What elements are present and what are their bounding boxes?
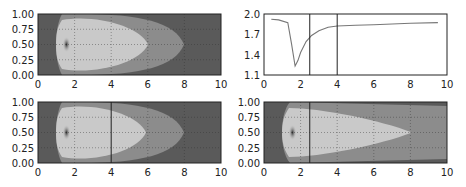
ytick: 1.4 xyxy=(244,50,260,61)
xticks-top-right: 0 2 4 6 8 10 xyxy=(261,79,454,90)
contour-area xyxy=(38,14,221,75)
xtick: 2 xyxy=(71,167,77,178)
xtick: 0 xyxy=(35,79,41,90)
xtick: 4 xyxy=(334,79,340,90)
xtick: 6 xyxy=(145,79,151,90)
xticks-bottom-right: 0 2 4 6 8 10 xyxy=(261,167,454,178)
xtick: 6 xyxy=(371,167,377,178)
plot-top-right xyxy=(264,14,447,75)
ytick: 1.00 xyxy=(12,9,34,20)
xtick: 8 xyxy=(407,167,413,178)
contour-source-spot xyxy=(63,125,71,141)
xtick: 10 xyxy=(441,167,454,178)
ytick: 1.7 xyxy=(244,29,260,40)
yticks-bottom-right: 1.00 0.75 0.50 0.25 0.00 xyxy=(238,97,260,169)
ytick: 0.00 xyxy=(12,158,34,169)
ytick: 2.0 xyxy=(244,9,260,20)
xtick: 8 xyxy=(181,79,187,90)
ytick: 0.75 xyxy=(238,112,260,123)
xtick: 8 xyxy=(181,167,187,178)
xtick: 0 xyxy=(261,167,267,178)
xtick: 0 xyxy=(35,167,41,178)
plot-bottom-left xyxy=(38,102,221,163)
contour-source-spot xyxy=(63,37,71,53)
ytick: 0.00 xyxy=(238,158,260,169)
xtick: 4 xyxy=(108,167,114,178)
xtick: 4 xyxy=(108,79,114,90)
xtick: 10 xyxy=(215,167,228,178)
xtick: 6 xyxy=(145,167,151,178)
ytick: 0.25 xyxy=(238,143,260,154)
ytick: 0.00 xyxy=(12,70,34,81)
xtick: 8 xyxy=(407,79,413,90)
ytick: 1.00 xyxy=(238,97,260,108)
ytick: 0.50 xyxy=(12,39,34,50)
ytick: 0.75 xyxy=(12,112,34,123)
yticks-bottom-left: 1.00 0.75 0.50 0.25 0.00 xyxy=(12,97,34,169)
ytick: 0.50 xyxy=(238,127,260,138)
yticks-top-left: 1.00 0.75 0.50 0.25 0.00 xyxy=(12,9,34,81)
plot-bottom-right xyxy=(264,102,447,163)
xtick: 4 xyxy=(334,167,340,178)
ytick: 0.25 xyxy=(12,55,34,66)
xtick: 2 xyxy=(297,79,303,90)
xtick: 0 xyxy=(261,79,267,90)
figure: 1.00 0.75 0.50 0.25 0.00 0 2 4 6 8 10 2.… xyxy=(0,0,466,187)
ytick: 1.00 xyxy=(12,97,34,108)
contour-area xyxy=(38,102,221,163)
xticks-bottom-left: 0 2 4 6 8 10 xyxy=(35,167,228,178)
xtick: 10 xyxy=(441,79,454,90)
plot-top-left xyxy=(38,14,221,75)
yticks-top-right: 2.0 1.7 1.4 1.1 xyxy=(244,9,260,81)
xtick: 2 xyxy=(297,167,303,178)
xtick: 6 xyxy=(371,79,377,90)
ytick: 0.50 xyxy=(12,127,34,138)
ytick: 0.75 xyxy=(12,24,34,35)
xtick: 2 xyxy=(71,79,77,90)
xtick: 10 xyxy=(215,79,228,90)
ytick: 0.25 xyxy=(12,143,34,154)
contour-source-spot xyxy=(289,125,297,141)
xticks-top-left: 0 2 4 6 8 10 xyxy=(35,79,228,90)
contour-area xyxy=(264,102,447,163)
ytick: 1.1 xyxy=(244,70,260,81)
